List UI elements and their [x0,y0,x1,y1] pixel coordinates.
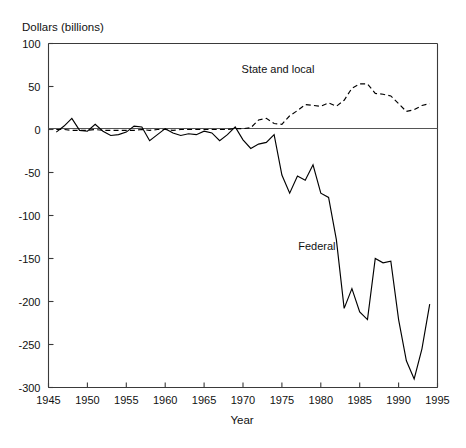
series-annotations: FederalState and local [242,63,336,252]
series-label-state-and-local: State and local [242,63,315,75]
series-label-federal: Federal [298,240,335,252]
x-tick-label: 1970 [231,394,255,406]
x-tick-label: 1980 [309,394,333,406]
x-tick-label: 1965 [192,394,216,406]
y-tick-label: 100 [22,38,40,50]
plot-frame [49,44,438,388]
deficit-line-chart: Dollars (billions) Year 100500-50-100-15… [0,0,466,448]
x-tick-label: 1990 [386,394,410,406]
x-tick-label: 1955 [114,394,138,406]
y-axis-title: Dollars (billions) [22,21,104,33]
y-tick-label: -250 [18,339,40,351]
y-tick-label: 0 [34,124,40,136]
x-tick-label: 1960 [153,394,177,406]
chart-page: Dollars (billions) Year 100500-50-100-15… [0,0,466,448]
x-tick-label: 1995 [425,394,449,406]
y-tick-label: -200 [18,296,40,308]
x-tick-label: 1975 [270,394,294,406]
x-tick-label: 1950 [75,394,99,406]
series-line-state-and-local [56,84,429,130]
y-tick-label: -100 [18,210,40,222]
x-axis-ticks: 1945195019551960196519701975198019851990… [36,383,449,406]
y-tick-label: -50 [25,167,41,179]
y-tick-label: -150 [18,253,40,265]
x-tick-label: 1945 [36,394,60,406]
x-tick-label: 1985 [347,394,371,406]
y-tick-label: 50 [28,81,40,93]
x-axis-title: Year [230,414,253,426]
y-tick-label: -300 [18,382,40,394]
series-line-federal [56,118,429,379]
